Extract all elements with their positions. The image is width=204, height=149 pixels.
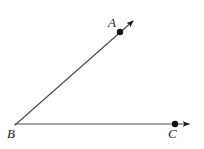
- point-a-dot: [117, 29, 123, 35]
- ray-ba: [15, 21, 133, 125]
- point-b-label: B: [7, 127, 15, 140]
- point-a-label: A: [108, 16, 116, 29]
- point-c-label: C: [168, 127, 177, 140]
- geometry-diagram: A B C: [0, 0, 204, 149]
